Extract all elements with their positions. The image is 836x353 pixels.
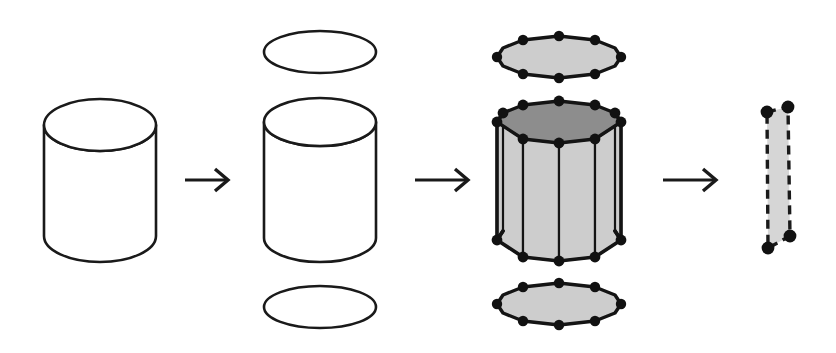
vertex-dot: [590, 35, 600, 45]
vertex-dot: [590, 69, 600, 79]
vertex-dot: [616, 52, 626, 62]
vertex-dot: [784, 230, 797, 243]
tessellated-top-cap: [492, 31, 626, 83]
vertex-dot: [762, 242, 775, 255]
vertex-dot: [616, 235, 627, 246]
vertex-dot: [590, 316, 600, 326]
vertex-dot: [616, 117, 627, 128]
vertex-dot: [761, 106, 774, 119]
vertex-dot: [554, 73, 564, 83]
vertex-dot: [782, 101, 795, 114]
stage-exploded-cylinder: [264, 31, 376, 328]
prism-side-face: [523, 139, 559, 261]
vertex-dot: [518, 100, 529, 111]
vertex-dot: [590, 100, 601, 111]
vertex-dot: [554, 278, 564, 288]
exploded-bottom-cap-ellipse: [264, 286, 376, 328]
cylinder-top-ellipse: [44, 99, 156, 151]
stage-solid-cylinder: [44, 99, 156, 262]
vertex-dot: [590, 134, 601, 145]
vertex-dot: [492, 52, 502, 62]
vertex-dot: [554, 96, 565, 107]
vertex-dot: [554, 138, 565, 149]
exploded-tube-top-rim: [264, 98, 376, 146]
vertex-dot: [610, 108, 621, 119]
arrow-stage-3-to-4: [663, 169, 716, 191]
vertex-dot: [518, 282, 528, 292]
vertex-dot: [498, 108, 509, 119]
stage-single-quad-face: [761, 101, 797, 255]
prism-side-face: [559, 139, 595, 261]
vertex-dot: [554, 31, 564, 41]
figure-canvas: [0, 0, 836, 353]
quad-face-patch: [767, 107, 790, 248]
vertex-dot: [616, 299, 626, 309]
stage-tessellated-prism: [492, 31, 627, 330]
vertex-dot: [492, 299, 502, 309]
vertex-dot: [590, 282, 600, 292]
vertex-dot: [492, 235, 503, 246]
cylinder-tessellation-figure: [0, 0, 836, 353]
vertex-dot: [518, 69, 528, 79]
arrow-stage-2-to-3: [415, 169, 468, 191]
prism-body: [492, 96, 627, 267]
exploded-top-cap-ellipse: [264, 31, 376, 73]
vertex-dot: [518, 134, 529, 145]
vertex-dot: [590, 252, 601, 263]
bottom-cap-polygon: [497, 283, 621, 325]
vertex-dot: [554, 320, 564, 330]
vertex-dot: [554, 256, 565, 267]
top-cap-polygon: [497, 36, 621, 78]
vertex-dot: [518, 316, 528, 326]
vertex-dot: [492, 117, 503, 128]
arrow-stage-1-to-2: [185, 169, 228, 191]
tessellated-bottom-cap: [492, 278, 626, 330]
vertex-dot: [518, 252, 529, 263]
vertex-dot: [518, 35, 528, 45]
